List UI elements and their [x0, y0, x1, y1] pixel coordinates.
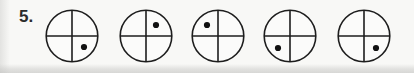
quadrant-dot-lower-right-1	[81, 44, 87, 50]
paper-shading-left	[0, 0, 10, 73]
circle-with-crosshair-svg-3	[191, 9, 245, 63]
item-number-label: 5.	[19, 6, 33, 28]
circle-figure-5[interactable]	[337, 9, 391, 63]
circle-with-crosshair-svg-4	[263, 9, 317, 63]
quadrant-dot-upper-right-2	[153, 22, 159, 28]
circle-figure-4[interactable]	[263, 9, 317, 63]
puzzle-figure: 5.	[0, 0, 414, 73]
circle-with-crosshair-svg-2	[119, 9, 173, 63]
circle-figure-2[interactable]	[119, 9, 173, 63]
circle-with-crosshair-svg-1	[45, 9, 99, 63]
circle-figure-1[interactable]	[45, 9, 99, 63]
circle-with-crosshair-svg-5	[337, 9, 391, 63]
quadrant-dot-lower-right-5	[373, 45, 379, 51]
quadrant-dot-upper-left-3	[204, 22, 210, 28]
circle-figure-3[interactable]	[191, 9, 245, 63]
paper-shading-bottom	[0, 64, 414, 73]
quadrant-dot-lower-left-4	[275, 45, 281, 51]
